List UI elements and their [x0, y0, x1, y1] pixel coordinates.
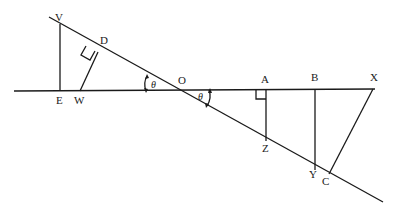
label-E: E — [56, 94, 63, 106]
arc-arrow — [145, 74, 149, 79]
label-B: B — [311, 71, 318, 83]
segment-XC — [329, 89, 373, 174]
label-A: A — [261, 73, 269, 85]
angle-label-theta-left: θ — [151, 79, 156, 90]
label-Z: Z — [262, 142, 269, 154]
label-W: W — [74, 94, 85, 106]
angle-label-theta-right: θ — [198, 91, 203, 102]
label-Y: Y — [309, 168, 317, 180]
segment-WD — [80, 52, 98, 91]
label-O: O — [178, 74, 186, 86]
label-X: X — [370, 71, 378, 83]
right-angle-mark-D — [81, 46, 95, 60]
label-C: C — [322, 175, 329, 187]
right-angle-mark-A — [256, 90, 266, 99]
horizontal-line — [14, 89, 375, 91]
label-V: V — [55, 11, 63, 23]
label-D: D — [100, 34, 108, 46]
geometry-diagram: V D E W O A B X Z Y C θ θ — [0, 0, 393, 203]
